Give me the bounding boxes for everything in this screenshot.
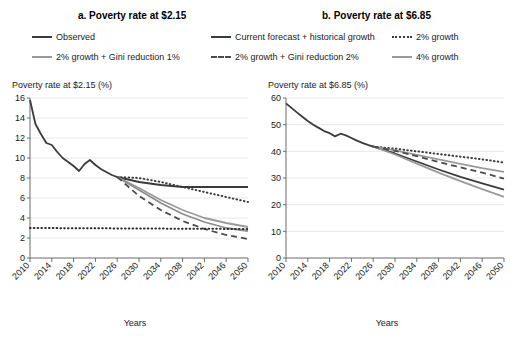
legend-item-growth4: 4% growth <box>392 52 459 62</box>
svg-text:2034: 2034 <box>141 260 162 281</box>
svg-text:2038: 2038 <box>163 260 184 281</box>
legend-item-growth2: 2% growth <box>392 32 459 42</box>
svg-text:2050: 2050 <box>228 260 249 281</box>
svg-text:10: 10 <box>15 153 25 163</box>
svg-text:2038: 2038 <box>419 260 440 281</box>
svg-text:2022: 2022 <box>76 260 97 281</box>
svg-text:2050: 2050 <box>484 260 505 281</box>
legend-swatch-gini2-icon <box>211 53 231 62</box>
chart-b-x-axis-title: Years <box>258 318 516 328</box>
legend-label-current-forecast: Current forecast + historical growth <box>235 32 375 42</box>
svg-text:2014: 2014 <box>288 260 309 281</box>
svg-text:12: 12 <box>15 133 25 143</box>
legend-label-growth4: 4% growth <box>416 52 459 62</box>
svg-text:8: 8 <box>20 173 25 183</box>
legend-swatch-growth4-icon <box>392 53 412 62</box>
chart-a-x-axis-title: Years <box>6 318 264 328</box>
legend-label-observed: Observed <box>56 32 95 42</box>
legend-item-observed: Observed <box>32 32 95 42</box>
svg-text:10: 10 <box>271 227 281 237</box>
legend-swatch-gini1-icon <box>32 53 52 62</box>
legend-swatch-observed-icon <box>32 33 52 42</box>
svg-text:4: 4 <box>20 213 25 223</box>
chart-a-y-axis-title: Poverty rate at $2.15 (%) <box>12 80 112 90</box>
legend-swatch-current-forecast-icon <box>211 33 231 42</box>
chart-legend: Observed 2% growth + Gini reduction 1% C… <box>0 30 517 72</box>
legend-label-gini1: 2% growth + Gini reduction 1% <box>56 52 180 62</box>
svg-text:2026: 2026 <box>97 260 118 281</box>
svg-text:60: 60 <box>271 93 281 103</box>
chart-b-y-axis-title: Poverty rate at $6.85 (%) <box>268 80 368 90</box>
svg-text:2018: 2018 <box>54 260 75 281</box>
chart-panel-b: Poverty rate at $6.85 (%) 01020304050602… <box>256 80 514 342</box>
svg-text:2026: 2026 <box>353 260 374 281</box>
legend-label-gini2: 2% growth + Gini reduction 2% <box>235 52 359 62</box>
legend-label-growth2: 2% growth <box>416 32 459 42</box>
svg-text:2030: 2030 <box>375 260 396 281</box>
svg-text:50: 50 <box>271 120 281 130</box>
legend-item-gini2: 2% growth + Gini reduction 2% <box>211 52 359 62</box>
legend-item-current-forecast: Current forecast + historical growth <box>211 32 375 42</box>
chart-panel-a: Poverty rate at $2.15 (%) 02468101214162… <box>0 80 258 342</box>
chart-b-plot: 0102030405060201020142018202220262030203… <box>256 92 514 318</box>
panel-a-title: a. Poverty rate at $2.15 <box>78 10 186 21</box>
svg-text:2018: 2018 <box>310 260 331 281</box>
legend-item-gini1: 2% growth + Gini reduction 1% <box>32 52 180 62</box>
svg-text:20: 20 <box>271 200 281 210</box>
svg-text:2046: 2046 <box>462 260 483 281</box>
svg-text:2030: 2030 <box>119 260 140 281</box>
svg-text:30: 30 <box>271 173 281 183</box>
svg-text:2034: 2034 <box>397 260 418 281</box>
figure-root: a. Poverty rate at $2.15 b. Poverty rate… <box>0 0 517 349</box>
svg-text:16: 16 <box>15 93 25 103</box>
panel-b-title: b. Poverty rate at $6.85 <box>322 10 431 21</box>
svg-text:2014: 2014 <box>32 260 53 281</box>
svg-text:2010: 2010 <box>10 260 31 281</box>
chart-a-plot: 0246810121416201020142018202220262030203… <box>0 92 258 318</box>
svg-text:2: 2 <box>20 233 25 243</box>
legend-swatch-growth2-icon <box>392 33 412 42</box>
svg-text:2010: 2010 <box>266 260 287 281</box>
svg-text:14: 14 <box>15 113 25 123</box>
svg-text:2046: 2046 <box>206 260 227 281</box>
svg-text:2042: 2042 <box>185 260 206 281</box>
svg-text:40: 40 <box>271 147 281 157</box>
svg-text:6: 6 <box>20 193 25 203</box>
svg-text:2022: 2022 <box>332 260 353 281</box>
svg-text:2042: 2042 <box>441 260 462 281</box>
